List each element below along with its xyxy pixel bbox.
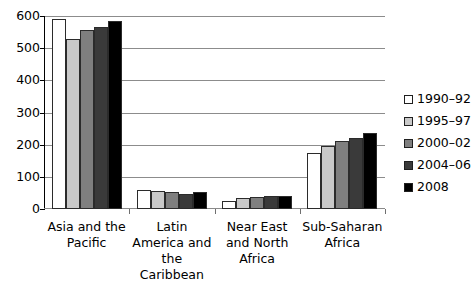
y-axis-tick-label: 500 bbox=[6, 42, 40, 55]
y-tick-mark bbox=[40, 48, 45, 49]
bar bbox=[108, 21, 122, 209]
y-axis: 6005004003002001000 bbox=[0, 0, 40, 272]
bar-group bbox=[222, 16, 292, 209]
x-tick-mark bbox=[300, 209, 301, 214]
bar bbox=[94, 27, 108, 209]
legend-swatch bbox=[404, 139, 413, 148]
x-axis-category-label: Sub-Saharan Africa bbox=[300, 219, 385, 251]
legend: 1990–921995–972000–022004–062008 bbox=[404, 88, 471, 198]
legend-swatch bbox=[404, 183, 413, 192]
bar-group bbox=[307, 16, 377, 209]
bar bbox=[52, 19, 66, 209]
legend-label: 2004–06 bbox=[417, 159, 471, 172]
bar bbox=[165, 192, 179, 209]
bar bbox=[321, 146, 335, 209]
legend-label: 2008 bbox=[417, 181, 449, 194]
plot-area bbox=[44, 16, 385, 209]
legend-item: 2000–02 bbox=[404, 132, 471, 154]
y-tick-mark bbox=[40, 80, 45, 81]
bar bbox=[179, 194, 193, 209]
bar bbox=[335, 141, 349, 209]
bar bbox=[222, 201, 236, 209]
bar bbox=[151, 191, 165, 209]
legend-swatch bbox=[404, 95, 413, 104]
y-tick-mark bbox=[40, 113, 45, 114]
x-tick-mark bbox=[215, 209, 216, 214]
bar bbox=[236, 198, 250, 209]
legend-label: 1990–92 bbox=[417, 93, 471, 106]
bar-group bbox=[137, 16, 207, 209]
y-axis-tick-label: 200 bbox=[6, 138, 40, 151]
bar bbox=[80, 30, 94, 209]
bar bbox=[137, 190, 151, 209]
bar bbox=[250, 197, 264, 209]
y-tick-mark bbox=[40, 209, 45, 210]
y-axis-tick-label: 600 bbox=[6, 10, 40, 23]
y-axis-tick-label: 300 bbox=[6, 106, 40, 119]
legend-swatch bbox=[404, 161, 413, 170]
bar bbox=[349, 138, 363, 209]
bar bbox=[193, 192, 207, 209]
y-tick-mark bbox=[40, 16, 45, 17]
x-tick-mark bbox=[129, 209, 130, 214]
legend-item: 2008 bbox=[404, 176, 471, 198]
legend-label: 1995–97 bbox=[417, 115, 471, 128]
legend-item: 1995–97 bbox=[404, 110, 471, 132]
legend-swatch bbox=[404, 117, 413, 126]
legend-item: 1990–92 bbox=[404, 88, 471, 110]
bar bbox=[264, 196, 278, 209]
bar bbox=[278, 196, 292, 210]
x-axis-category-label: Asia and the Pacific bbox=[44, 219, 129, 251]
bar bbox=[66, 39, 80, 209]
bar bbox=[363, 133, 377, 209]
bar-group bbox=[52, 16, 122, 209]
x-tick-mark bbox=[385, 209, 386, 214]
x-axis-category-label: Near East and North Africa bbox=[215, 219, 300, 267]
y-axis-tick-label: 0 bbox=[6, 203, 40, 216]
y-tick-mark bbox=[40, 145, 45, 146]
y-tick-mark bbox=[40, 177, 45, 178]
legend-item: 2004–06 bbox=[404, 154, 471, 176]
y-axis-tick-label: 400 bbox=[6, 74, 40, 87]
x-axis-category-label: Latin America and the Caribbean bbox=[129, 219, 214, 283]
legend-label: 2000–02 bbox=[417, 137, 471, 150]
y-axis-tick-label: 100 bbox=[6, 171, 40, 184]
bar bbox=[307, 153, 321, 209]
